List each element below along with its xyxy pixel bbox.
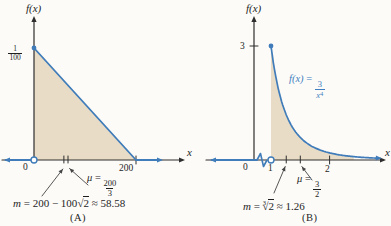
x-tick-label-b-2: 2 bbox=[325, 164, 330, 174]
exponent: 4 bbox=[320, 90, 323, 97]
y-tick-label-b-3: 3 bbox=[240, 41, 245, 51]
radicand: 2 bbox=[268, 199, 274, 212]
x-tick-label-b-0: 0 bbox=[243, 162, 248, 172]
fraction-numerator: 1 bbox=[13, 45, 17, 53]
m-symbol: m bbox=[243, 200, 251, 212]
x-tick-label-b-1: 1 bbox=[268, 163, 273, 173]
mean-label-b: μ = 32 bbox=[297, 173, 321, 199]
fraction-numerator: 200 bbox=[103, 179, 116, 188]
panel-caption-b: (B) bbox=[302, 212, 318, 224]
x-axis-label-b: x bbox=[385, 146, 390, 158]
y-intercept-label-a: 1100 bbox=[8, 38, 22, 63]
panel-caption-a: (A) bbox=[70, 212, 86, 224]
equals-sign: = bbox=[306, 73, 312, 84]
equals-sign: = bbox=[95, 172, 101, 183]
fraction-numerator: 3 bbox=[318, 80, 322, 89]
fraction-denominator: 2 bbox=[313, 189, 320, 199]
radicand: 2 bbox=[83, 196, 89, 209]
mean-label-a: μ = 2003 bbox=[87, 172, 116, 198]
y-axis-label-a: f(x) bbox=[26, 2, 41, 14]
mu-symbol: μ bbox=[87, 172, 92, 183]
curve-equation-label-b: f(x) = 3x4 bbox=[289, 73, 325, 100]
median-label-a: m = 200 − 100√2 ≈ 58.58 bbox=[13, 197, 125, 209]
fraction-denominator: x4 bbox=[315, 89, 325, 100]
y-axis-label-b: f(x) bbox=[246, 2, 261, 14]
x-tick-label-a-200: 200 bbox=[119, 163, 133, 173]
fraction-denominator: 100 bbox=[8, 53, 22, 62]
equals-sign: = bbox=[305, 173, 311, 184]
fraction-numerator: 3 bbox=[315, 180, 319, 189]
median-label-b: m = 3√2 ≈ 1.26 bbox=[243, 199, 305, 212]
m-symbol: m bbox=[13, 197, 21, 209]
x-tick-label-a-0: 0 bbox=[23, 162, 28, 172]
figure-container: f(x) 1100 0 200 μ = 2003 m = 200 − 100√2… bbox=[0, 0, 391, 226]
x-axis-label-a: x bbox=[187, 146, 192, 158]
figure-canvas bbox=[0, 0, 391, 226]
mu-symbol: μ bbox=[297, 173, 302, 184]
